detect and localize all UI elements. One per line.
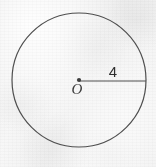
geometry-figure: O 4 xyxy=(0,0,156,167)
circle-diagram-svg: O 4 xyxy=(0,0,156,167)
center-point-label: O xyxy=(72,81,83,97)
radius-length-label: 4 xyxy=(109,63,117,80)
